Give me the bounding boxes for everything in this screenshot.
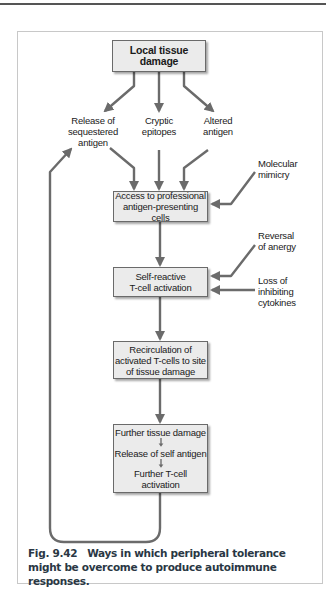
figure-number: Fig. 9.42 [28,547,77,559]
box-local-tissue-damage-label: Local tissue damage [113,45,205,67]
down-arrow-icon [154,459,168,469]
step-further-tissue-damage: Further tissue damage [115,427,206,438]
down-arrow-icon [154,438,168,448]
label-release-sequestered-antigen: Release of sequestered antigen [62,115,124,148]
arrow-anergy-to-selfreactive [212,245,255,276]
arrow-release-to-apc [110,148,134,189]
figure-caption: Fig. 9.42Ways in which peripheral tolera… [28,546,320,588]
box-further-damage-cycle: Further tissue damage Release of self an… [113,424,208,493]
label-cryptic-epitopes: Cryptic epitopes [134,115,184,137]
label-molecular-mimicry: Molecular mimicry [258,158,318,180]
label-loss-of-inhibiting-cytokines: Loss of inhibiting cytokines [258,275,318,308]
label-reversal-of-anergy: Reversal of anergy [258,230,318,252]
box-self-reactive-tcell: Self-reactive T-cell activation [113,267,208,297]
step-further-tcell-activation: Further T-cell activation [114,468,207,490]
arrow-to-altered [184,72,213,111]
step-release-self-antigen: Release of self antigen [114,448,206,459]
box-access-apc: Access to professional antigen-presentin… [113,191,208,222]
arrow-to-release [105,72,134,111]
box-local-tissue-damage: Local tissue damage [112,40,206,72]
box-recirculation: Recirculation of activated T-cells to si… [113,341,208,379]
arrow-mimicry-to-apc [212,172,255,204]
arrow-altered-to-apc [184,150,208,189]
label-altered-antigen: Altered antigen [196,115,240,137]
